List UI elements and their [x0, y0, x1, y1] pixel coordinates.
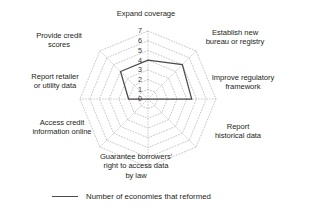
axis-label-report-retailer-data: Report retailer or utility data [9, 72, 101, 91]
axis-label-establish-bureau: Establish new bureau or registry [188, 28, 282, 47]
legend-series-label: Number of economies that reformed [86, 192, 211, 201]
radial-tick-3: 3 [130, 66, 142, 73]
chart-legend: Number of economies that reformed [52, 192, 211, 201]
radial-tick-0: 0 [130, 95, 142, 102]
axis-label-improve-regulatory: Improve regulatory framework [193, 73, 293, 92]
radial-tick-6: 6 [130, 37, 142, 44]
axis-label-guarantee-borrowers: Guarantee borrowers' right to access dat… [79, 152, 193, 180]
axis-label-report-historical-data: Report historical data [194, 122, 282, 141]
radial-tick-4: 4 [130, 57, 142, 64]
legend-line-swatch [52, 196, 78, 197]
axis-label-access-credit-online: Access credit information online [14, 118, 110, 137]
axis-label-expand-coverage: Expand coverage [96, 9, 196, 18]
radial-tick-2: 2 [130, 76, 142, 83]
radial-tick-5: 5 [130, 47, 142, 54]
axis-label-provide-credit-scores: Provide credit scores [14, 31, 104, 50]
radial-tick-1: 1 [130, 86, 142, 93]
radar-chart-figure: Expand coverage Establish new bureau or … [0, 0, 335, 220]
radial-tick-7: 7 [130, 27, 142, 34]
